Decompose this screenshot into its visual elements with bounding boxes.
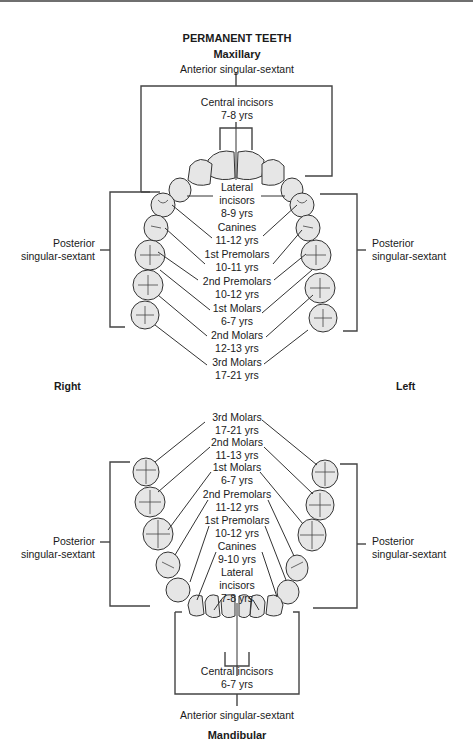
label-line: singular-sextant	[20, 250, 95, 263]
maxillary-anterior-label: Anterior singular-sextant	[180, 63, 294, 76]
maxillary-2nd-molars-label: 2nd Molars 12-13 yrs	[211, 329, 263, 355]
tooth-name: 1st Molars	[213, 302, 261, 315]
maxillary-central-incisors-label: Central incisors 7-8 yrs	[201, 96, 273, 122]
tooth-age: 9-10 yrs	[218, 553, 257, 566]
tooth-name: Lateral	[219, 181, 255, 194]
maxillary-canines-label: Canines 11-12 yrs	[216, 221, 259, 247]
tooth-name: Central incisors	[201, 96, 273, 109]
tooth-name: Canines	[216, 221, 259, 234]
tooth-name: 2nd Molars	[211, 436, 263, 449]
mandibular-2nd-premolars-label: 2nd Premolars 11-12 yrs	[203, 488, 271, 514]
mandibular-3rd-molars-label: 3rd Molars 17-21 yrs	[212, 411, 262, 437]
tooth-age: 10-12 yrs	[205, 527, 270, 540]
maxillary-anterior-bracket	[141, 72, 332, 192]
tooth-age: 6-7 yrs	[201, 678, 273, 691]
label-line: Posterior	[372, 535, 446, 548]
maxillary-1st-molars-label: 1st Molars 6-7 yrs	[213, 302, 261, 328]
tooth-name: Lateral	[219, 566, 255, 579]
tooth-age: 6-7 yrs	[213, 315, 261, 328]
mandibular-central-incisors-label: Central incisors 6-7 yrs	[201, 665, 273, 691]
diagram-title: PERMANENT TEETH	[183, 32, 292, 45]
tooth-name: 2nd Premolars	[203, 275, 271, 288]
side-label-left: Left	[396, 380, 415, 393]
tooth-name: 1st Premolars	[205, 514, 270, 527]
mandibular-posterior-right-label: Posterior singular-sextant	[20, 535, 95, 561]
mandibular-posterior-left-label: Posterior singular-sextant	[372, 535, 446, 561]
maxillary-3rd-molars-label: 3rd Molars 17-21 yrs	[212, 356, 262, 382]
mandibular-canines-label: Canines 9-10 yrs	[218, 540, 257, 566]
tooth-name: 2nd Premolars	[203, 488, 271, 501]
label-line: singular-sextant	[372, 250, 446, 263]
mandibular-anterior-label: Anterior singular-sextant	[180, 709, 294, 722]
label-line: Posterior	[20, 237, 95, 250]
tooth-name: 3rd Molars	[212, 356, 262, 369]
tooth-name: 1st Molars	[213, 461, 261, 474]
label-line: Posterior	[20, 535, 95, 548]
tooth-name: 2nd Molars	[211, 329, 263, 342]
maxillary-posterior-right-label: Posterior singular-sextant	[20, 237, 95, 263]
tooth-age: 6-7 yrs	[213, 474, 261, 487]
tooth-age: 10-11 yrs	[205, 261, 270, 274]
label-line: singular-sextant	[20, 548, 95, 561]
tooth-age: 12-13 yrs	[211, 342, 263, 355]
tooth-name: Central incisors	[201, 665, 273, 678]
tooth-name: incisors	[219, 194, 255, 207]
label-line: singular-sextant	[372, 548, 446, 561]
tooth-age: 10-12 yrs	[203, 288, 271, 301]
tooth-age: 11-12 yrs	[216, 234, 259, 247]
maxillary-2nd-premolars-label: 2nd Premolars 10-12 yrs	[203, 275, 271, 301]
mandibular-heading: Mandibular	[208, 729, 267, 742]
side-label-right: Right	[54, 380, 81, 393]
maxillary-1st-premolars-label: 1st Premolars 10-11 yrs	[205, 248, 270, 274]
mandibular-2nd-molars-label: 2nd Molars 11-13 yrs	[211, 436, 263, 462]
tooth-age: 17-21 yrs	[212, 369, 262, 382]
mandibular-lateral-incisors-label: Lateral incisors 7-8 yrs	[219, 566, 255, 605]
maxillary-posterior-left-label: Posterior singular-sextant	[372, 237, 446, 263]
mandibular-1st-premolars-label: 1st Premolars 10-12 yrs	[205, 514, 270, 540]
tooth-name: Canines	[218, 540, 257, 553]
tooth-name: 3rd Molars	[212, 411, 262, 424]
label-line: Posterior	[372, 237, 446, 250]
mandibular-1st-molars-label: 1st Molars 6-7 yrs	[213, 461, 261, 487]
tooth-name: incisors	[219, 579, 255, 592]
maxillary-lateral-incisors-label: Lateral incisors 8-9 yrs	[219, 181, 255, 220]
maxillary-heading: Maxillary	[213, 48, 260, 61]
tooth-age: 11-12 yrs	[203, 501, 271, 514]
tooth-age: 8-9 yrs	[219, 207, 255, 220]
tooth-age: 7-8 yrs	[201, 109, 273, 122]
tooth-name: 1st Premolars	[205, 248, 270, 261]
tooth-age: 7-8 yrs	[219, 592, 255, 605]
